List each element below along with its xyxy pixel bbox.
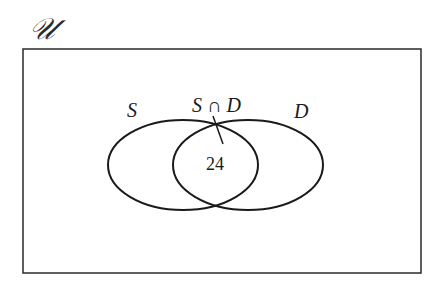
set-s-label: S bbox=[127, 100, 137, 120]
intersection-count: 24 bbox=[206, 155, 224, 173]
venn-diagram bbox=[0, 0, 440, 290]
intersection-label: S ∩ D bbox=[192, 95, 241, 115]
set-s-ellipse bbox=[108, 120, 258, 210]
set-d-label: D bbox=[294, 101, 308, 121]
set-d-ellipse bbox=[173, 120, 323, 210]
intersection-pointer-line bbox=[213, 116, 223, 144]
